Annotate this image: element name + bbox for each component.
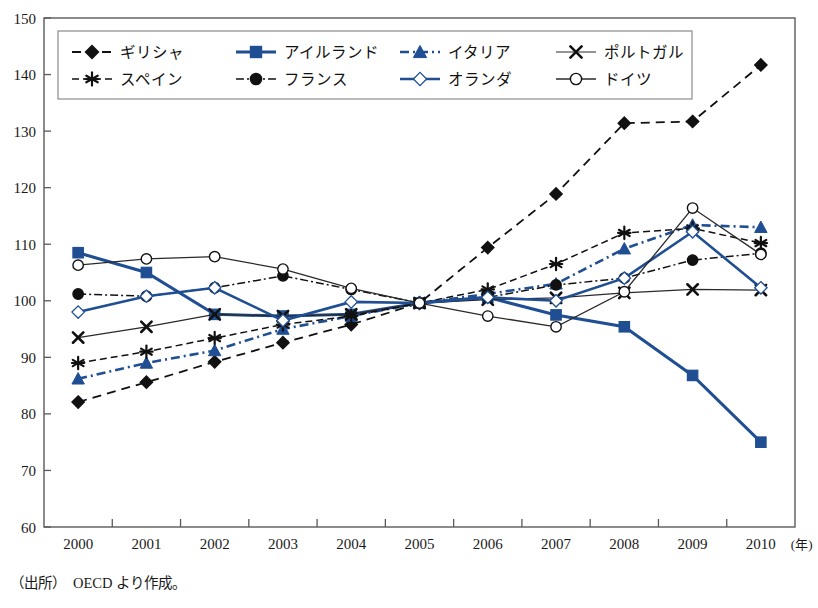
x-axis-tick-label: 2003 [268,536,298,552]
marker-circle [687,203,697,213]
legend-label: ギリシャ [120,44,184,61]
marker-square [687,370,697,380]
marker-diamond [208,282,220,294]
y-axis-tick-label: 70 [21,463,36,479]
x-axis-tick-label: 2001 [131,536,161,552]
marker-asterisk [550,258,562,270]
marker-circle [278,264,288,274]
marker-diamond [277,336,289,348]
x-axis-tick-label: 2007 [541,536,572,552]
legend-frame [58,31,692,99]
x-axis-tick-label: 2009 [678,536,708,552]
x-axis-tick-label: 2005 [405,536,435,552]
marker-circle [570,73,581,84]
marker-square [250,46,261,57]
y-axis-tick-label: 140 [14,67,37,83]
marker-diamond [72,396,84,408]
series-line [78,253,761,442]
marker-circle [414,298,424,308]
legend-label: イタリア [448,44,511,61]
marker-asterisk [208,332,220,344]
marker-circle [346,283,356,293]
series-7 [73,203,766,332]
marker-circle [73,260,83,270]
marker-triangle [618,243,630,254]
marker-circle [483,311,493,321]
x-axis-tick-label: 2000 [63,536,93,552]
marker-circle [73,289,83,299]
marker-diamond [140,290,152,302]
y-axis-tick-label: 130 [14,124,37,140]
marker-circle [619,287,629,297]
series-6 [72,226,767,327]
legend-label: フランス [284,71,348,88]
marker-asterisk [618,227,630,239]
x-axis-tick-label: 2004 [336,536,367,552]
marker-triangle [755,221,767,232]
marker-diamond [686,115,698,127]
marker-diamond [550,295,562,307]
marker-diamond [72,306,84,318]
source-note: （出所） OECD より作成。 [10,575,186,591]
y-axis-tick-label: 120 [14,180,37,196]
legend-label: オランダ [448,71,512,88]
x-axis-tick-label: 2002 [200,536,230,552]
marker-diamond [140,376,152,388]
marker-diamond [208,356,220,368]
marker-circle [250,73,261,84]
marker-square [619,322,629,332]
legend-label: アイルランド [284,44,379,61]
y-axis-tick-label: 90 [21,350,36,366]
marker-circle [209,251,219,261]
y-axis-tick-label: 80 [21,406,36,422]
marker-circle [141,254,151,264]
x-axis-tick-label: 2008 [609,536,639,552]
legend-label: ポルトガル [604,44,684,61]
marker-circle [551,322,561,332]
x-axis-tick-label: 2006 [473,536,504,552]
marker-diamond [345,296,357,308]
marker-asterisk [72,357,84,369]
legend-label: ドイツ [604,71,652,88]
marker-diamond [755,59,767,71]
marker-square [756,437,766,447]
chart-container: 6070809010011012013014015020002001200220… [0,0,818,608]
line-chart: 6070809010011012013014015020002001200220… [0,0,818,608]
marker-circle [756,249,766,259]
y-axis-tick-label: 110 [14,237,36,253]
legend: ギリシャアイルランドイタリアポルトガルスペインフランスオランダドイツ [58,31,692,99]
marker-square [141,267,151,277]
y-axis-tick-label: 100 [14,293,37,309]
series-line [78,253,761,303]
series-1 [73,248,766,448]
x-axis-unit-label: (年) [791,537,813,552]
marker-circle [687,255,697,265]
marker-circle [551,280,561,290]
marker-square [73,248,83,258]
marker-asterisk [140,345,152,357]
y-axis-tick-label: 60 [21,520,36,536]
marker-square [551,310,561,320]
legend-label: スペイン [120,71,183,88]
y-axis-tick-label: 150 [14,11,37,27]
marker-diamond [550,188,562,200]
series-line [78,228,761,363]
x-axis-tick-label: 2010 [746,536,776,552]
